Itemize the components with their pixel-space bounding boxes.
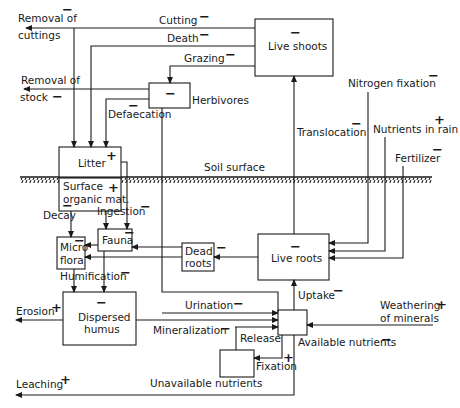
urination-label: Urination xyxy=(185,299,233,311)
live-shoots-box: − Live shoots xyxy=(255,19,333,76)
litter-label: Litter xyxy=(78,157,106,169)
nutrients-rain-label: Nutrients in rain xyxy=(373,123,458,135)
removal-stock-label-2: stock xyxy=(20,91,49,103)
weathering-label-1: Weathering xyxy=(380,299,440,311)
micro-flora-label-2: flora xyxy=(60,254,84,266)
nutrients-rain-arrow xyxy=(329,137,385,251)
translocation-sign: − xyxy=(351,116,362,131)
mineralization-label: Mineralization xyxy=(153,324,227,336)
available-nutrients-box xyxy=(278,310,307,335)
fauna-box: Fauna − xyxy=(98,225,135,251)
release-label: Release xyxy=(240,332,281,344)
litter-sign: + xyxy=(106,148,117,163)
erosion-label: Erosion xyxy=(16,305,55,317)
litter-box: Litter + xyxy=(59,147,121,177)
removal-cuttings-label-2: cuttings xyxy=(18,29,60,41)
micro-flora-box: Micro flora − xyxy=(57,233,88,269)
urination-sign: − xyxy=(233,296,244,311)
micro-flora-sign: − xyxy=(74,233,85,248)
weathering-label-2: of minerals xyxy=(380,312,439,324)
decay-sign: − xyxy=(62,198,73,213)
dispersed-humus-box: − Dispersed humus xyxy=(63,292,136,345)
mineralization-sign: − xyxy=(220,321,231,336)
dead-roots-sign: − xyxy=(216,240,227,255)
soil-surface-label: Soil surface xyxy=(204,161,265,173)
available-nutrients-sign: − xyxy=(381,332,392,347)
humification-sign: − xyxy=(120,265,131,280)
dead-roots-label-2: roots xyxy=(185,257,212,269)
leaching-label: Leaching xyxy=(16,378,63,390)
herbivores-label: Herbivores xyxy=(192,94,249,106)
ingestion-label: Ingestion xyxy=(97,205,145,217)
fertilizer-sign: − xyxy=(432,142,443,157)
live-shoots-label: Live shoots xyxy=(268,40,327,52)
fixation-sign: + xyxy=(283,350,294,365)
cutting-sign: − xyxy=(199,9,210,24)
live-shoots-sign: − xyxy=(290,25,301,40)
live-roots-box: − Live roots xyxy=(258,234,329,280)
nitrogen-fixation-sign: − xyxy=(428,68,439,83)
erosion-sign: + xyxy=(51,300,62,315)
leaching-sign: + xyxy=(60,372,71,387)
humification-label: Humification xyxy=(60,270,127,282)
grazing-sign: − xyxy=(225,47,236,62)
nutrients-rain-sign: + xyxy=(434,112,445,127)
removal-cuttings-sign: − xyxy=(62,2,73,17)
dead-roots-label-1: Dead xyxy=(185,245,213,257)
dispersed-humus-label-2: humus xyxy=(84,323,120,335)
urination-line xyxy=(162,108,278,312)
removal-stock-sign: − xyxy=(52,89,63,104)
nitrogen-fixation-label: Nitrogen fixation xyxy=(348,77,436,89)
nutrient-cycle-diagram: Soil surface − Live shoots − Herbivores … xyxy=(0,0,460,408)
dead-roots-box: Dead roots xyxy=(182,243,214,271)
unavailable-nutrients-box xyxy=(220,350,254,377)
unavailable-nutrients-label: Unavailable nutrients xyxy=(150,377,262,389)
uptake-sign: − xyxy=(333,283,344,298)
death-label: Death xyxy=(167,32,199,44)
defaecation-sign: − xyxy=(128,98,139,113)
dispersed-humus-sign: − xyxy=(96,295,107,310)
death-sign: − xyxy=(199,27,210,42)
ingestion-sign: − xyxy=(140,199,151,214)
nitrogen-fixation-arrow xyxy=(329,92,368,243)
grazing-arrow xyxy=(170,66,255,83)
live-roots-label: Live roots xyxy=(271,252,322,264)
herbivores-box: − xyxy=(149,83,190,108)
surface-organic-mat-label-1: Surface xyxy=(63,180,103,192)
weathering-sign: + xyxy=(436,297,447,312)
surface-organic-mat-label-2: organic mat. xyxy=(63,193,129,205)
fauna-sign: − xyxy=(124,225,135,240)
dispersed-humus-label-1: Dispersed xyxy=(78,311,131,323)
uptake-label: Uptake xyxy=(298,289,335,301)
grazing-label: Grazing xyxy=(184,52,225,64)
herbivores-sign: − xyxy=(165,86,176,101)
cutting-label: Cutting xyxy=(159,14,197,26)
removal-stock-label-1: Removal of xyxy=(21,74,80,86)
